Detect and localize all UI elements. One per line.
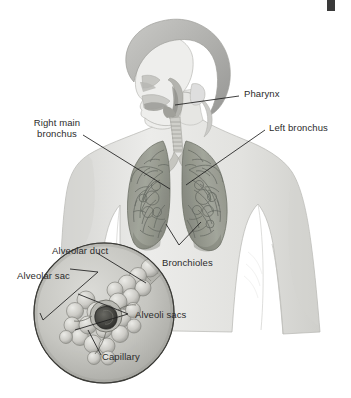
label-right-main-bronchus-line2: bronchus	[37, 128, 77, 139]
label-bronchioles: Bronchioles	[162, 258, 213, 269]
page-register-mark	[327, 0, 335, 11]
label-alveoli-sacs: Alveoli sacs	[135, 310, 186, 321]
label-pharynx: Pharynx	[244, 89, 280, 100]
label-capillary: Capillary	[102, 352, 140, 363]
anatomy-illustration	[0, 0, 351, 398]
label-right-main-bronchus: Right mainbronchus	[24, 118, 90, 139]
respiratory-system-figure: Pharynx Right mainbronchus Left bronchus…	[0, 0, 351, 398]
label-left-bronchus: Left bronchus	[269, 123, 328, 134]
label-right-main-bronchus-line1: Right main	[34, 117, 80, 128]
label-alveolar-sac: Alveolar sac	[17, 271, 70, 282]
label-alveolar-duct: Alveolar duct	[52, 246, 108, 257]
